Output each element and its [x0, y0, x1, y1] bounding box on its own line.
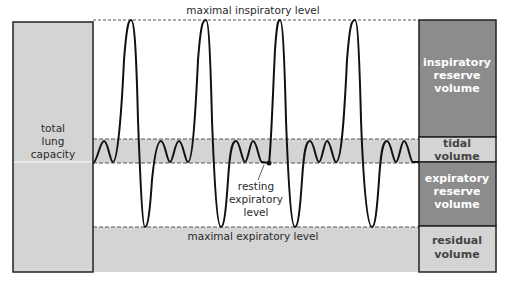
erv-label-2: reserve [434, 185, 481, 198]
irv-label-3: volume [434, 82, 479, 95]
irv-label-1: inspiratory [423, 56, 491, 69]
irv-label-2: reserve [434, 69, 481, 82]
tlc-label-1: total [41, 122, 65, 134]
erv-label-1: expiratory [425, 172, 489, 185]
resting-expiratory-label-1: resting [238, 180, 274, 192]
tidal-label-2: volume [434, 150, 479, 163]
erv-label-3: volume [434, 198, 479, 211]
max-inspiratory-label: maximal inspiratory level [186, 4, 319, 16]
residual-label-1: residual [432, 234, 482, 247]
tlc-label-3: capacity [31, 148, 75, 160]
total-lung-capacity-box [13, 22, 93, 272]
tidal-label-1: tidal [443, 137, 471, 150]
tidal-band [93, 139, 419, 163]
resting-pointer-line [258, 165, 264, 180]
lung-volume-diagram: total lung capacity inspiratory reserve … [0, 0, 507, 282]
tlc-label-2: lung [42, 135, 65, 147]
resting-expiratory-label-3: level [244, 206, 269, 218]
resting-expiratory-label-2: expiratory [229, 193, 283, 205]
residual-label-2: volume [434, 248, 479, 261]
max-expiratory-label: maximal expiratory level [188, 230, 319, 242]
